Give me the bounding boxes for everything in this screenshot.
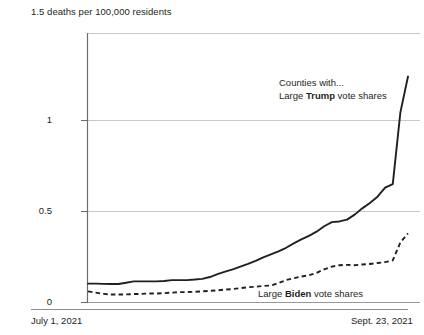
annotation-biden-prefix: Large [258, 288, 285, 299]
annotation-trump-line1: Counties with... [279, 77, 387, 90]
annotation-trump: Counties with... Large Trump vote shares [279, 77, 387, 102]
chart-plot-area [0, 0, 424, 335]
annotation-biden-emphasis: Biden [285, 288, 311, 299]
annotation-biden: Large Biden vote shares [258, 288, 363, 301]
annotation-trump-suffix: vote shares [335, 90, 387, 101]
annotation-trump-line2: Large Trump vote shares [279, 90, 387, 103]
axis-lines [31, 33, 408, 310]
series-line-trump [88, 77, 408, 284]
annotation-trump-emphasis: Trump [306, 90, 335, 101]
annotation-trump-prefix: Large [279, 90, 306, 101]
annotation-biden-suffix: vote shares [311, 288, 363, 299]
chart-container: 1.5 deaths per 100,000 residents 1 0.5 0… [0, 0, 424, 335]
